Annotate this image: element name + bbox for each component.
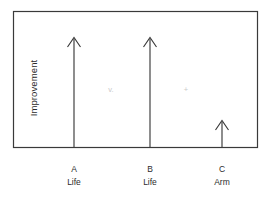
category-sublabel-c: Arm bbox=[214, 177, 230, 187]
category-letter-c: C bbox=[219, 164, 225, 174]
chart-background bbox=[0, 0, 274, 198]
category-sublabel-a: Life bbox=[67, 177, 81, 187]
improvement-arrow-chart: Improvement v. + A Life B Life C Arm bbox=[0, 0, 274, 198]
annotation-plus: + bbox=[184, 85, 189, 94]
y-axis-label: Improvement bbox=[28, 59, 39, 116]
category-letter-a: A bbox=[71, 164, 77, 174]
annotation-versus: v. bbox=[108, 85, 113, 94]
category-letter-b: B bbox=[147, 164, 153, 174]
category-sublabel-b: Life bbox=[143, 177, 157, 187]
figure-container: Improvement v. + A Life B Life C Arm bbox=[0, 0, 274, 198]
